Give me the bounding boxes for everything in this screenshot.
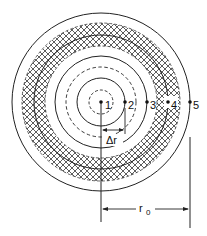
node-1-label: 1 xyxy=(105,99,111,111)
node-5-label: 5 xyxy=(193,99,199,111)
node-3-label: 3 xyxy=(150,99,156,111)
concentric-grid-diagram: Δr r 0 1 2 3 4 5 xyxy=(0,0,207,236)
delta-r-label: Δr xyxy=(106,134,117,146)
r0-subscript: 0 xyxy=(146,208,151,217)
r0-label: r xyxy=(139,202,143,214)
node-4-label: 4 xyxy=(171,99,177,111)
node-2-label: 2 xyxy=(128,99,134,111)
